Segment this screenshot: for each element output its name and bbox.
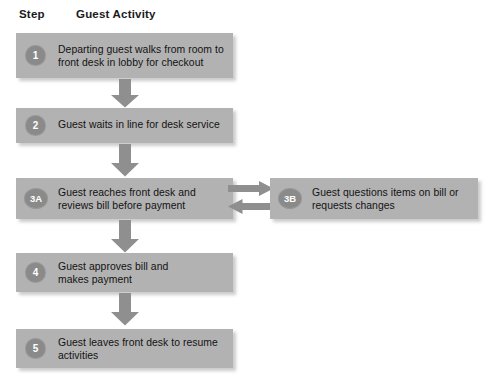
process-box-step-3a[interactable]: 3A Guest reaches front desk and reviews …	[16, 178, 233, 219]
arrow-3a-to-3b	[228, 181, 274, 196]
step-text-5-line-1: Guest leaves front desk to resume	[58, 337, 233, 350]
step-badge-4: 4	[25, 262, 46, 283]
step-text-3b: Guest questions items on bill or request…	[312, 187, 477, 212]
process-box-step-1[interactable]: 1 Departing guest walks from room to fro…	[16, 33, 233, 78]
step-text-1: Departing guest walks from room to front…	[58, 44, 228, 69]
column-header-step: Step	[19, 8, 45, 20]
process-box-step-4[interactable]: 4 Guest approves bill and makes payment	[16, 253, 233, 292]
process-box-step-2[interactable]: 2 Guest waits in line for desk service	[16, 108, 233, 143]
step-badge-3a: 3A	[24, 188, 48, 209]
column-header-guest-activity: Guest Activity	[76, 8, 156, 20]
step-text-3a-line-2: reviews bill before payment	[58, 200, 228, 213]
step-text-4-line-2: makes payment	[58, 274, 228, 287]
step-text-5-line-2: activities	[58, 350, 233, 363]
arrow-3a-to-4	[110, 220, 140, 253]
step-badge-3b: 3B	[278, 188, 302, 209]
process-box-step-3b[interactable]: 3B Guest questions items on bill or requ…	[270, 178, 478, 219]
process-box-step-5[interactable]: 5 Guest leaves front desk to resume acti…	[16, 329, 233, 368]
step-badge-1: 1	[25, 45, 46, 66]
step-text-3b-line-2: requests changes	[312, 200, 477, 213]
arrow-3b-to-3a	[228, 199, 274, 214]
step-text-4: Guest approves bill and makes payment	[58, 261, 228, 286]
step-text-1-line-1: Departing guest walks from room to	[58, 44, 228, 57]
step-text-4-line-1: Guest approves bill and	[58, 261, 228, 274]
step-text-3b-line-1: Guest questions items on bill or	[312, 187, 477, 200]
step-text-2-line-1: Guest waits in line for desk service	[58, 119, 238, 132]
step-text-5: Guest leaves front desk to resume activi…	[58, 337, 233, 362]
step-badge-5: 5	[25, 338, 46, 359]
step-text-2: Guest waits in line for desk service	[58, 119, 238, 132]
arrow-1-to-2	[110, 79, 140, 108]
step-text-1-line-2: front desk in lobby for checkout	[58, 57, 228, 70]
arrow-2-to-3a	[110, 144, 140, 177]
step-badge-2: 2	[25, 115, 46, 136]
arrow-4-to-5	[110, 293, 140, 326]
step-text-3a: Guest reaches front desk and reviews bil…	[58, 187, 228, 212]
step-text-3a-line-1: Guest reaches front desk and	[58, 187, 228, 200]
flowchart-canvas: Step Guest Activity 1 Departing guest wa…	[0, 0, 496, 383]
